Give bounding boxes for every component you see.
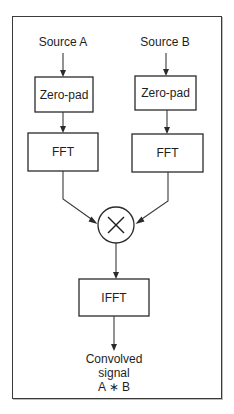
arrow-multiply-to-ifft <box>113 243 119 279</box>
source-a-label: Source A <box>39 35 88 49</box>
fft-a-block: FFT <box>28 133 98 171</box>
fft-b-label: FFT <box>157 146 180 160</box>
source-b-label: Source B <box>140 35 189 49</box>
fft-convolution-diagram: Source A Source B Zero-pad Zero-pad FFT … <box>0 0 234 414</box>
output-line-3: A ∗ B <box>98 380 130 394</box>
ifft-block: IFFT <box>79 279 149 316</box>
multiply-node <box>98 207 134 243</box>
output-label: Convolved signal A ∗ B <box>86 352 143 394</box>
arrow-fft-a-to-multiply <box>63 171 98 224</box>
arrow-zeropad-b-to-fft-b <box>164 110 170 134</box>
output-line-2: signal <box>98 366 129 380</box>
arrow-ifft-to-output <box>111 316 117 351</box>
zeropad-a-block: Zero-pad <box>35 77 93 112</box>
arrow-source-b-to-zeropad-b <box>163 53 169 76</box>
fft-a-label: FFT <box>52 145 75 159</box>
ifft-label: IFFT <box>101 291 127 305</box>
arrow-fft-b-to-multiply <box>136 172 169 224</box>
zeropad-a-label: Zero-pad <box>40 88 89 102</box>
output-line-1: Convolved <box>86 352 143 366</box>
arrow-source-a-to-zeropad-a <box>60 53 66 77</box>
arrow-zeropad-a-to-fft-a <box>60 112 66 133</box>
zeropad-b-block: Zero-pad <box>135 76 196 110</box>
fft-b-block: FFT <box>132 134 203 172</box>
zeropad-b-label: Zero-pad <box>141 86 190 100</box>
